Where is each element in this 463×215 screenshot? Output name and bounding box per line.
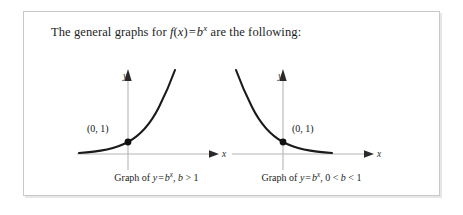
caption-equals: =: [157, 172, 165, 183]
title-suffix-text: are the following:: [207, 25, 301, 39]
exponential-growth-plot: [69, 54, 244, 172]
point-marker-0-1: [125, 139, 132, 146]
caption-condition-prefix: 0 <: [325, 172, 341, 183]
point-marker-0-1: [280, 139, 287, 146]
y-axis-label: y: [278, 71, 282, 81]
exponential-growth-graph: y x (0, 1) Graph of y=bx, b > 1: [69, 54, 244, 194]
caption-prefix: Graph of: [114, 172, 152, 183]
graph-caption-decay: Graph of y=bx, 0 < b < 1: [224, 172, 399, 183]
caption-equals: =: [304, 172, 312, 183]
caption-prefix: Graph of: [262, 172, 300, 183]
x-axis-arrowhead: [364, 150, 374, 157]
figure-title: The general graphs for f(x)=bx are the f…: [51, 25, 301, 40]
caption-condition-rest: > 1: [183, 172, 199, 183]
figure-panel: The general graphs for f(x)=bx are the f…: [23, 11, 440, 196]
point-label-0-1: (0, 1): [292, 123, 314, 134]
graph-caption-growth: Graph of y=bx, b > 1: [69, 172, 244, 183]
title-equals-sign: =: [188, 25, 197, 39]
point-label-0-1: (0, 1): [87, 123, 109, 134]
caption-condition-rest: < 1: [346, 172, 362, 183]
y-axis-label: y: [123, 71, 127, 81]
exponential-decay-graph: y x (0, 1) Graph of y=bx, 0 < b < 1: [224, 54, 399, 194]
exponential-decay-plot: [224, 54, 399, 172]
x-axis-label: x: [377, 149, 381, 159]
title-prefix-text: The general graphs for: [51, 25, 170, 39]
x-axis-arrowhead: [209, 150, 219, 157]
graphs-row: y x (0, 1) Graph of y=bx, b > 1 y: [24, 54, 439, 194]
